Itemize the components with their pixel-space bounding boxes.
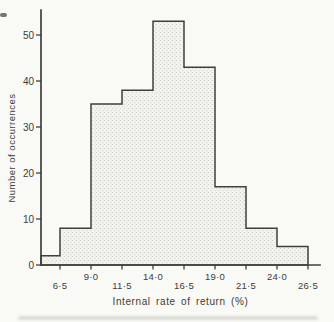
x-tick-label: 19·0	[205, 271, 225, 282]
y-tick-label: 50	[23, 30, 35, 41]
y-tick-label: 30	[23, 122, 35, 133]
histogram-plot: 010203040506·59·011·514·016·519·021·524·…	[0, 0, 334, 322]
x-tick-label: 14·0	[143, 271, 163, 282]
histogram-figure: Number of occurrences 010203040506·59·01…	[0, 0, 334, 322]
scan-artifact	[0, 13, 7, 17]
cropped-caption-remnant	[18, 316, 318, 320]
x-tick-label: 6·5	[53, 280, 68, 291]
x-tick-label: 16·5	[174, 280, 194, 291]
x-tick-label: 11·5	[112, 280, 132, 291]
y-tick-label: 0	[28, 260, 34, 271]
x-axis-title: Internal rate of return (%)	[41, 296, 320, 307]
y-tick-label: 20	[23, 168, 35, 179]
x-tick-label: 21·5	[236, 280, 256, 291]
x-tick-label: 9·0	[84, 271, 99, 282]
histogram-bars-outline	[41, 21, 308, 265]
y-tick-label: 40	[23, 76, 35, 87]
x-tick-label: 26·5	[298, 280, 318, 291]
x-tick-label: 24·0	[267, 271, 287, 282]
y-tick-label: 10	[23, 214, 35, 225]
